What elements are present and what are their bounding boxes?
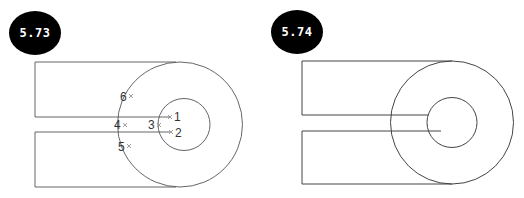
lower-arm-outline: [35, 132, 176, 187]
point-label-1: 1: [174, 110, 181, 124]
point-label-6: 6: [120, 90, 127, 104]
point-label-4: 4: [114, 118, 121, 132]
upper-arm-outline: [302, 61, 452, 115]
drawing-5-73: 1 2 3 4 5 6: [0, 0, 262, 198]
figure-5-73: 5.73 1 2 3 4 5 6: [0, 0, 262, 198]
lower-arm-outline: [302, 131, 452, 184]
inner-circle: [427, 98, 477, 148]
point-marker-6: [129, 94, 133, 98]
upper-arm-outline: [35, 62, 176, 117]
figure-5-74: 5.74: [262, 0, 524, 198]
point-marker-4: [123, 123, 127, 127]
point-label-5: 5: [118, 140, 125, 154]
outer-circle: [118, 62, 243, 187]
outer-circle: [391, 61, 514, 184]
drawing-5-74: [262, 0, 524, 198]
point-label-3: 3: [148, 118, 155, 132]
point-marker-5: [127, 144, 131, 148]
inner-circle: [158, 99, 210, 151]
point-label-2: 2: [175, 126, 182, 140]
